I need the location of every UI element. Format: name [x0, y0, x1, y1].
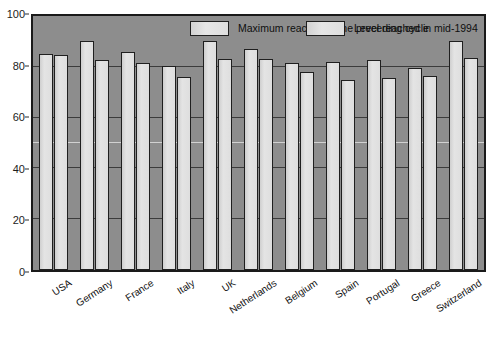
- bar: [39, 54, 53, 270]
- bar: [95, 60, 109, 270]
- plot-inner: [33, 16, 484, 270]
- bar: [382, 78, 396, 270]
- legend-swatch-icon: [190, 21, 229, 36]
- y-axis-tick-label: 40: [13, 163, 25, 174]
- bar-group: [156, 16, 197, 270]
- bar: [464, 58, 478, 270]
- plot-area: Maximum reached in the preceding cycleLe…: [31, 14, 486, 272]
- bar: [326, 62, 340, 270]
- x-axis-tick-label: USA: [50, 278, 73, 298]
- x-axis: USAGermanyFranceItalyUKNetherlandsBelgiu…: [31, 272, 486, 341]
- legend-swatch-icon: [306, 21, 345, 36]
- bars-layer: [33, 16, 484, 270]
- bar: [203, 41, 217, 270]
- y-axis-tick-mark: [25, 272, 29, 273]
- bar: [423, 76, 437, 270]
- x-axis-tick-label: France: [123, 278, 155, 303]
- legend-label: Level reached in mid-1994: [354, 23, 478, 34]
- bar: [121, 52, 135, 270]
- bar: [162, 66, 176, 270]
- bar-group: [115, 16, 156, 270]
- y-axis-tick-label: 80: [13, 60, 25, 71]
- bar: [136, 63, 150, 270]
- x-axis-tick-label: Germany: [74, 278, 114, 309]
- bar-group: [402, 16, 443, 270]
- y-axis-tick-label: 100: [7, 9, 25, 20]
- bar: [408, 68, 422, 270]
- bar: [300, 72, 314, 270]
- bar: [259, 59, 273, 270]
- y-axis-tick-mark: [25, 168, 29, 169]
- x-axis-tick-label: UK: [220, 278, 237, 294]
- y-axis-tick-mark: [25, 65, 29, 66]
- bar-group: [361, 16, 402, 270]
- bar-group: [320, 16, 361, 270]
- bar-group: [74, 16, 115, 270]
- y-axis-tick-label: 20: [13, 215, 25, 226]
- legend-item[interactable]: Level reached in mid-1994: [306, 21, 478, 36]
- y-axis-tick-mark: [25, 14, 29, 15]
- bar-chart-figure: 020406080100 Maximum reached in the prec…: [0, 0, 500, 341]
- x-axis-tick-label: Greece: [409, 278, 442, 304]
- y-axis: 020406080100: [0, 0, 29, 341]
- y-axis-tick-label: 60: [13, 112, 25, 123]
- x-axis-tick-label: Switzerland: [434, 278, 483, 315]
- bar: [177, 77, 191, 270]
- y-axis-tick-mark: [25, 117, 29, 118]
- bar: [80, 41, 94, 270]
- x-axis-tick-label: Italy: [175, 278, 196, 296]
- bar: [341, 80, 355, 271]
- bar-group: [33, 16, 74, 270]
- bar-group: [443, 16, 484, 270]
- bar: [244, 49, 258, 270]
- bar-group: [238, 16, 279, 270]
- x-axis-tick-label: Portugal: [364, 278, 401, 307]
- bar: [449, 41, 463, 270]
- y-axis-tick-mark: [25, 220, 29, 221]
- x-axis-tick-label: Spain: [333, 278, 360, 300]
- bar: [367, 60, 381, 270]
- bar-group: [197, 16, 238, 270]
- bar: [285, 63, 299, 270]
- x-axis-tick-label: Belgium: [283, 278, 319, 306]
- chart-legend: Maximum reached in the preceding cycleLe…: [33, 16, 484, 50]
- bar: [218, 59, 232, 270]
- bar-group: [279, 16, 320, 270]
- bar: [54, 55, 68, 270]
